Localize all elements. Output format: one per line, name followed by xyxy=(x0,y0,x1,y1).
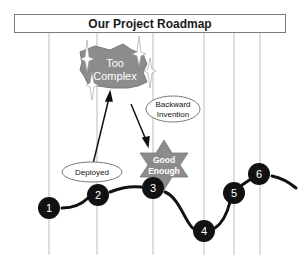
arrows xyxy=(92,92,149,168)
milestone-6: 6 xyxy=(248,163,270,185)
svg-text:2: 2 xyxy=(95,189,101,201)
arrow-up-icon xyxy=(106,92,112,101)
backward-invention-callout: Backward Invention xyxy=(146,96,200,122)
svg-text:4: 4 xyxy=(201,225,207,237)
too-complex-shape: Too Complex xyxy=(80,36,156,100)
milestone-3: 3 xyxy=(142,177,164,199)
milestone-4: 4 xyxy=(193,220,215,242)
milestone-5: 5 xyxy=(223,182,245,204)
too-complex-line2: Complex xyxy=(93,70,137,82)
deployed-callout: Deployed xyxy=(62,162,122,182)
deployed-label: Deployed xyxy=(75,168,109,177)
svg-text:6: 6 xyxy=(256,168,262,180)
backward-invention-line2: Invention xyxy=(157,110,189,119)
good-enough-line1: Good xyxy=(153,155,175,165)
svg-text:5: 5 xyxy=(231,187,237,199)
roadmap-diagram: Too Complex Backward Invention Good Enou… xyxy=(0,0,306,266)
milestone-1: 1 xyxy=(38,197,60,219)
good-enough-line2: Enough xyxy=(148,166,180,176)
milestone-2: 2 xyxy=(87,184,109,206)
too-complex-line1: Too xyxy=(106,57,124,69)
svg-text:3: 3 xyxy=(150,182,156,194)
arrow-down-icon xyxy=(143,137,149,146)
svg-text:1: 1 xyxy=(46,202,52,214)
backward-invention-line1: Backward xyxy=(155,100,190,109)
